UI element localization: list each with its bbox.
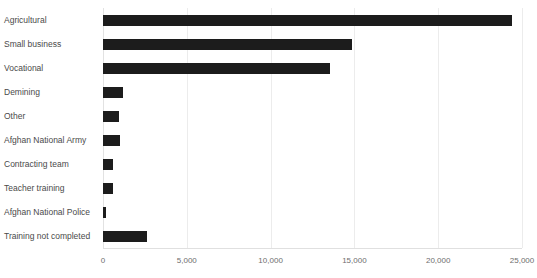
bar[interactable] [103,207,106,218]
bar[interactable] [103,63,330,74]
category-label: Teacher training [0,183,96,194]
category-label: Small business [0,39,96,50]
x-axis-tick-labels: 05,00010,00015,00020,00025,000 [0,255,537,271]
category-label: Agricultural [0,15,96,26]
gridline-25000 [522,8,523,248]
bar[interactable] [103,15,512,26]
x-tick-label: 5,000 [177,255,197,267]
category-label: Afghan National Army [0,135,96,146]
bar[interactable] [103,135,120,146]
bar[interactable] [103,183,113,194]
x-tick-label: 10,000 [258,255,282,267]
x-tick-label: 0 [101,255,105,267]
x-tick-label: 20,000 [426,255,450,267]
bar[interactable] [103,231,147,242]
x-tick-label: 25,000 [510,255,534,267]
x-axis-line [103,248,522,249]
category-label: Vocational [0,63,96,74]
category-label: Afghan National Police [0,207,96,218]
bar[interactable] [103,111,119,122]
category-label: Other [0,111,96,122]
bar-chart: AgriculturalSmall businessVocationalDemi… [0,0,537,278]
category-label: Demining [0,87,96,98]
category-axis-labels: AgriculturalSmall businessVocationalDemi… [0,8,96,248]
bar[interactable] [103,39,352,50]
category-label: Contracting team [0,159,96,170]
bars-group [103,8,522,248]
x-tick-label: 15,000 [342,255,366,267]
category-label: Training not completed [0,231,96,242]
plot-area [103,8,522,248]
bar[interactable] [103,87,123,98]
bar[interactable] [103,159,113,170]
